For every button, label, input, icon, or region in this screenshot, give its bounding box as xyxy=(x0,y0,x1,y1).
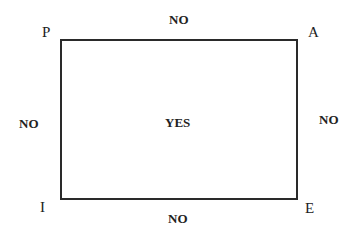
center-label: YES xyxy=(165,116,190,129)
edge-label-bottom: NO xyxy=(168,212,188,225)
corner-label-bottom-left: I xyxy=(40,200,45,215)
corner-label-bottom-right: E xyxy=(305,201,314,216)
edge-label-right: NO xyxy=(319,113,339,126)
corner-label-top-right: A xyxy=(308,25,319,40)
edge-label-left: NO xyxy=(19,117,39,130)
edge-label-top: NO xyxy=(169,13,189,26)
corner-label-top-left: P xyxy=(42,25,50,40)
